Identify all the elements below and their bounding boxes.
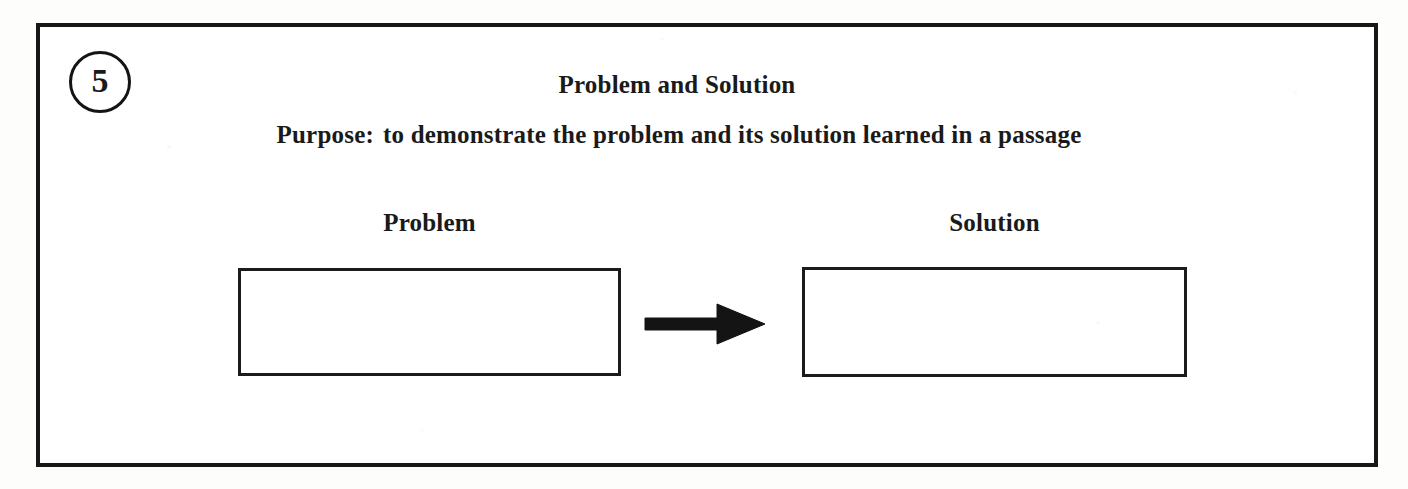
solution-answer-box[interactable] (802, 267, 1187, 377)
solution-node-label: Solution (802, 209, 1187, 237)
problem-node-label: Problem (238, 209, 621, 237)
right-arrow-icon (640, 299, 770, 349)
problem-solution-diagram: Problem Solution (40, 27, 1374, 463)
worksheet-frame: 5 Problem and Solution Purpose:to demons… (36, 23, 1378, 467)
problem-answer-box[interactable] (238, 268, 621, 376)
